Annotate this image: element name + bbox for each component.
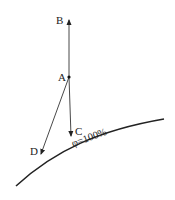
label-a: A xyxy=(58,71,66,83)
saturation-curve xyxy=(16,119,164,186)
vector-a-to-c xyxy=(69,77,71,136)
vector-diagram: B A C D φ=100% xyxy=(0,0,175,200)
vector-a-to-d xyxy=(41,77,69,154)
label-d: D xyxy=(30,145,38,157)
label-b: B xyxy=(56,14,63,26)
point-a-dot xyxy=(67,75,70,78)
diagram-canvas: B A C D φ=100% xyxy=(0,0,175,200)
